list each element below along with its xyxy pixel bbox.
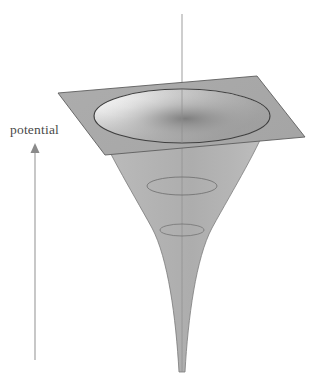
reference-plane [0,0,321,380]
potential-axis-label: potential [10,122,59,138]
potential-well-diagram [0,0,321,380]
plane-surface [0,0,321,380]
